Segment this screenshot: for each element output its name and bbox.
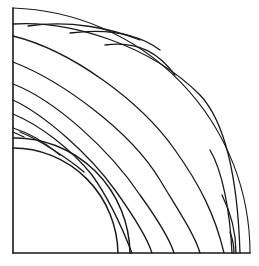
inner-arc-outer <box>13 138 130 253</box>
inner-arc-inner <box>13 148 118 253</box>
streamlines <box>13 24 240 253</box>
streamline-13 <box>210 150 232 253</box>
diagram-canvas <box>0 0 259 266</box>
streamline-11 <box>20 132 84 172</box>
quarter-circle-diagram <box>0 0 259 266</box>
streamline-8 <box>13 100 152 253</box>
streamline-6 <box>13 62 200 253</box>
